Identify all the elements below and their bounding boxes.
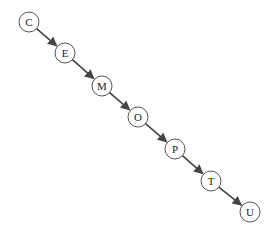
node-label: M [97,80,107,92]
node-label: C [25,16,32,28]
edge-O-P [146,124,167,142]
node-label: U [246,206,254,218]
node-label: P [172,143,178,155]
node-U: U [240,202,260,222]
node-label: T [208,175,215,187]
node-T: T [201,171,221,191]
node-E: E [55,43,75,63]
node-label: E [62,47,69,59]
node-label: O [134,111,142,123]
node-O: O [128,107,148,127]
edge-E-M [72,60,93,79]
edge-P-T [182,156,202,174]
node-P: P [165,139,185,159]
node-C: C [19,12,39,32]
edge-C-E [37,29,57,46]
path-diagram: CEMOPTU [0,0,276,234]
diagram-canvas: CEMOPTU [0,0,276,234]
edge-M-O [110,93,130,110]
edge-T-U [219,187,242,205]
node-M: M [92,76,112,96]
